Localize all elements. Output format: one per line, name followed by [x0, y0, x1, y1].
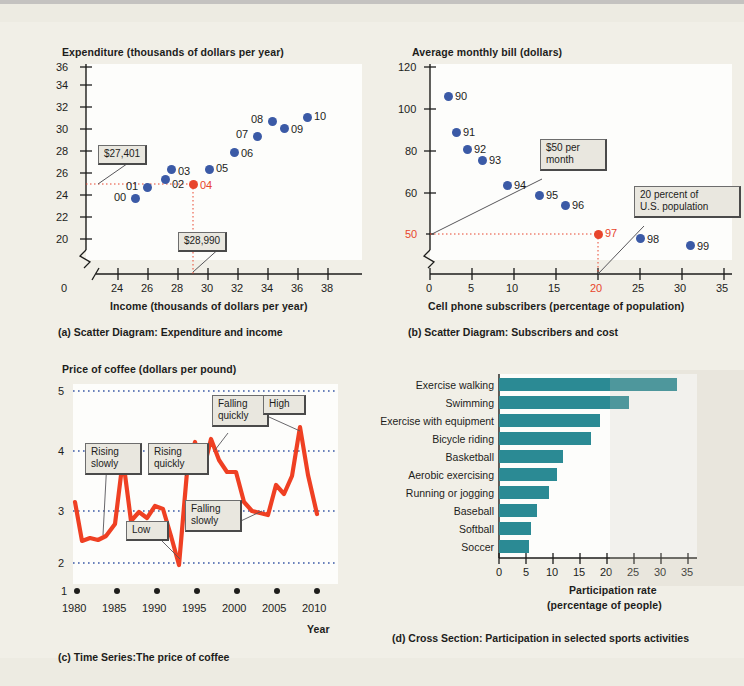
panel-a-point-10[interactable]	[303, 113, 312, 122]
panel-a-callout-28990: $28,990	[178, 232, 227, 252]
panel-a-ytick-20: 20	[56, 233, 68, 245]
panel-b-ytick-80: 80	[405, 145, 417, 157]
panel-c-caption: (c) Time Series:The price of coffee	[58, 651, 229, 663]
panel-a-ytick-34: 34	[56, 79, 68, 91]
panel-b-point-90[interactable]	[444, 92, 453, 101]
panel-b-scatter-subscribers-cost: Average monthly bill (dollars)	[372, 34, 744, 334]
panel-a-ytick-32: 32	[56, 101, 68, 113]
panel-c-callout-high: High	[263, 395, 306, 415]
panel-d-label-exercise-walking: Exercise walking	[382, 379, 494, 391]
panel-a-point-label-09: 09	[291, 123, 303, 135]
panel-b-x-axis-title: Cell phone subscribers (percentage of po…	[428, 300, 684, 312]
panel-a-point-label-04: 04	[200, 179, 212, 191]
panel-c-ytick-2: 2	[58, 557, 64, 569]
panel-c-xtick-2005: 2005	[262, 602, 286, 614]
panel-b-point-93[interactable]	[478, 156, 487, 165]
panel-b-point-label-91: 91	[463, 126, 475, 138]
panel-c-ytick-5: 5	[58, 385, 64, 397]
panel-d-label-basketball: Basketball	[382, 451, 494, 463]
panel-b-ytick-120: 120	[398, 61, 416, 73]
panel-a-xtick-24: 24	[111, 282, 123, 294]
panel-a-point-07[interactable]	[253, 132, 262, 141]
panel-b-xtick-10: 10	[506, 282, 518, 294]
panel-d-xtick-10: 10	[546, 566, 558, 578]
panel-b-xtick-15: 15	[548, 282, 560, 294]
panel-a-point-label-01: 01	[126, 180, 138, 192]
panel-c-callout-falling-quickly: Falling quickly	[212, 395, 269, 427]
panel-b-point-96[interactable]	[561, 201, 570, 210]
panel-a-point-08[interactable]	[268, 117, 277, 126]
panel-a-point-04-highlight[interactable]	[189, 180, 198, 189]
panel-d-bar-bicycle-riding[interactable]	[499, 432, 591, 445]
panel-b-point-99[interactable]	[686, 241, 695, 250]
panel-a-point-label-08: 08	[251, 113, 263, 125]
panel-a-xtick-36: 36	[291, 282, 303, 294]
panel-a-caption: (a) Scatter Diagram: Expenditure and inc…	[58, 326, 283, 338]
panel-a-point-label-00: 00	[114, 191, 126, 203]
panel-a-point-label-07: 07	[236, 128, 248, 140]
panel-b-point-label-93: 93	[489, 154, 501, 166]
panel-d-bar-baseball[interactable]	[499, 504, 537, 517]
panel-d-bar-exercise-with-equipment[interactable]	[499, 414, 600, 427]
panel-b-callout-20-percent: 20 percent of U.S. population	[634, 186, 741, 218]
panel-c-ytick-1: 1	[61, 585, 67, 597]
panel-a-ytick-26: 26	[56, 167, 68, 179]
panel-b-point-label-99: 99	[697, 240, 709, 252]
panel-a-point-01[interactable]	[143, 183, 152, 192]
panel-c-timeseries-coffee-price: Price of coffee (dollars per pound)	[0, 355, 372, 675]
panel-c-ytick-4: 4	[58, 445, 64, 457]
panel-a-ytick-30: 30	[56, 123, 68, 135]
panel-d-x-axis-title-line2: (percentage of people)	[547, 599, 662, 611]
panel-b-point-label-94: 94	[514, 179, 526, 191]
panel-d-bar-running-or-jogging[interactable]	[499, 486, 549, 499]
panel-b-point-95[interactable]	[535, 191, 544, 200]
panel-b-xtick-35: 35	[716, 282, 728, 294]
panel-b-point-label-96: 96	[572, 199, 584, 211]
panel-d-label-swimming: Swimming	[382, 397, 494, 409]
panel-b-point-label-98: 98	[647, 233, 659, 245]
panel-d-label-aerobic-exercising: Aerobic exercising	[382, 469, 494, 481]
panel-d-xtick-0: 0	[496, 566, 502, 578]
panel-a-xtick-26: 26	[141, 282, 153, 294]
panel-c-callout-rising-slowly: Rising slowly	[85, 443, 142, 475]
panel-a-point-09[interactable]	[280, 124, 289, 133]
panel-b-ytick-50: 50	[405, 228, 417, 240]
panel-a-point-label-03: 03	[178, 165, 190, 177]
panel-a-xtick-28: 28	[171, 282, 183, 294]
panel-d-label-bicycle-riding: Bicycle riding	[382, 433, 494, 445]
figure-page: Expenditure (thousands of dollars per ye…	[0, 0, 744, 686]
panel-a-ytick-22: 22	[56, 211, 68, 223]
panel-c-xtick-2000: 2000	[222, 602, 246, 614]
panel-a-xtick-0: 0	[61, 282, 67, 294]
panel-c-xtick-2010: 2010	[302, 602, 326, 614]
panel-d-label-running-or-jogging: Running or jogging	[382, 487, 494, 499]
panel-b-point-label-97: 97	[605, 227, 617, 239]
panel-c-xtick-1980: 1980	[62, 602, 86, 614]
panel-a-point-02[interactable]	[161, 175, 170, 184]
panel-a-point-00[interactable]	[131, 194, 140, 203]
panel-a-xtick-32: 32	[231, 282, 243, 294]
panel-b-ytick-100: 100	[398, 103, 416, 115]
panel-b-point-98[interactable]	[636, 234, 645, 243]
scan-smudge-right	[610, 370, 744, 586]
panel-a-point-03[interactable]	[167, 165, 176, 174]
panel-b-point-label-95: 95	[546, 189, 558, 201]
panel-d-caption: (d) Cross Section: Participation in sele…	[392, 632, 689, 644]
panel-b-point-92[interactable]	[463, 145, 472, 154]
panel-d-bar-softball[interactable]	[499, 522, 531, 535]
panel-b-xtick-0: 0	[426, 282, 432, 294]
panel-a-callout-27401: $27,401	[98, 145, 147, 165]
panel-d-label-baseball: Baseball	[382, 505, 494, 517]
panel-a-ytick-24: 24	[56, 189, 68, 201]
panel-b-point-97-highlight[interactable]	[594, 230, 603, 239]
panel-a-point-06[interactable]	[230, 148, 239, 157]
panel-c-xtick-1990: 1990	[142, 602, 166, 614]
panel-b-point-94[interactable]	[503, 181, 512, 190]
panel-d-bar-soccer[interactable]	[499, 540, 529, 553]
panel-b-point-91[interactable]	[452, 128, 461, 137]
panel-a-point-label-05: 05	[216, 162, 228, 174]
panel-b-xtick-5: 5	[468, 282, 474, 294]
panel-d-bar-basketball[interactable]	[499, 450, 563, 463]
panel-d-bar-aerobic-exercising[interactable]	[499, 468, 557, 481]
panel-a-point-05[interactable]	[205, 165, 214, 174]
